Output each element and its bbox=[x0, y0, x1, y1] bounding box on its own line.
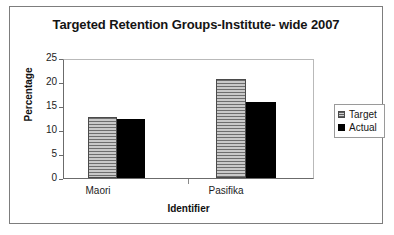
x-category-label-pasifika: Pasifika bbox=[176, 185, 276, 196]
x-axis-separator-tick bbox=[188, 179, 189, 184]
chart-legend: Target Actual bbox=[334, 104, 385, 138]
bar-maori-target bbox=[88, 117, 117, 178]
x-axis-title: Identifier bbox=[63, 203, 314, 214]
chart-title: Targeted Retention Groups-Institute- wid… bbox=[10, 17, 382, 32]
legend-item-target: Target bbox=[338, 108, 380, 121]
y-axis: 0 5 10 15 20 25 bbox=[10, 59, 63, 179]
bar-pasifika-actual bbox=[246, 102, 276, 178]
legend-swatch-target-icon bbox=[338, 111, 345, 118]
y-tick-label-15: 15 bbox=[46, 100, 57, 111]
x-category-label-maori: Maori bbox=[48, 185, 148, 196]
y-tick-label-25: 25 bbox=[46, 52, 57, 63]
legend-swatch-actual-icon bbox=[338, 124, 345, 131]
y-tick-label-10: 10 bbox=[46, 124, 57, 135]
bar-maori-actual bbox=[117, 119, 145, 178]
plot-area bbox=[63, 59, 314, 179]
legend-label-target: Target bbox=[349, 109, 377, 120]
y-tick-label-20: 20 bbox=[46, 76, 57, 87]
legend-label-actual: Actual bbox=[349, 122, 377, 133]
legend-item-actual: Actual bbox=[338, 121, 380, 134]
bars-layer bbox=[64, 60, 313, 178]
y-tick-mark-0 bbox=[59, 179, 63, 180]
y-tick-label-0: 0 bbox=[51, 172, 57, 183]
chart-frame: Targeted Retention Groups-Institute- wid… bbox=[9, 6, 383, 224]
y-tick-label-5: 5 bbox=[51, 148, 57, 159]
bar-pasifika-target bbox=[216, 79, 246, 178]
